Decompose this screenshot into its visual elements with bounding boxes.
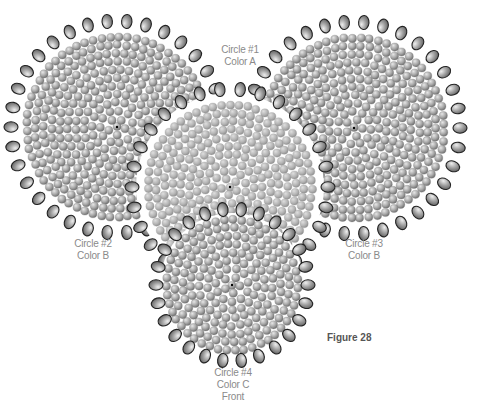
circle-4-color: Color C xyxy=(198,379,268,391)
circle-3-color: Color B xyxy=(329,250,399,262)
circle-4-label: Circle #4 Color C Front xyxy=(198,367,268,403)
figure-caption: Figure 28 xyxy=(327,332,371,343)
circle-2-color: Color B xyxy=(58,250,128,262)
circle-2-label: Circle #2 Color B xyxy=(58,238,128,262)
circle-4-number: Circle #4 xyxy=(198,367,268,379)
circle-3-number: Circle #3 xyxy=(329,238,399,250)
circle-1-number: Circle #1 xyxy=(205,44,275,56)
circle-3-label: Circle #3 Color B xyxy=(329,238,399,262)
circle-1-label: Circle #1 Color A xyxy=(205,44,275,68)
circle-4-side: Front xyxy=(198,391,268,403)
circle-1-color: Color A xyxy=(205,56,275,68)
circle-2-number: Circle #2 xyxy=(58,238,128,250)
